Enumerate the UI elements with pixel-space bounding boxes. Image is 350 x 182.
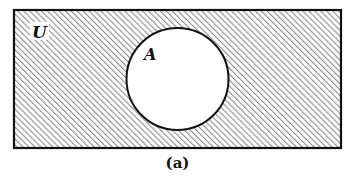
set-a-circle xyxy=(127,28,229,130)
figure-caption: (a) xyxy=(166,154,190,172)
universe-label: U xyxy=(32,22,48,42)
venn-diagram: U A (a) xyxy=(0,0,350,182)
set-a-label: A xyxy=(142,45,156,64)
